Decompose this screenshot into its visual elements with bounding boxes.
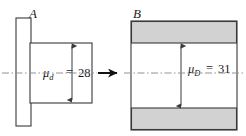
panel-a-group: A μd = 28 [16,6,92,126]
panel-b-bottom-band [132,108,237,130]
panel-b-top-band [132,22,237,44]
engineering-diagram: A μd = 28 B [0,0,246,136]
panel-b-mu-symbol: μ [187,62,194,76]
diagram-canvas: A μd = 28 B [0,0,246,136]
panel-b-group: B μD = 31 [131,6,237,130]
panel-a-flange [16,18,31,126]
panel-b-label: B [133,6,141,21]
panel-a-equals-sign: = [66,65,73,79]
panel-b-dimension-value: 31 [218,62,231,76]
